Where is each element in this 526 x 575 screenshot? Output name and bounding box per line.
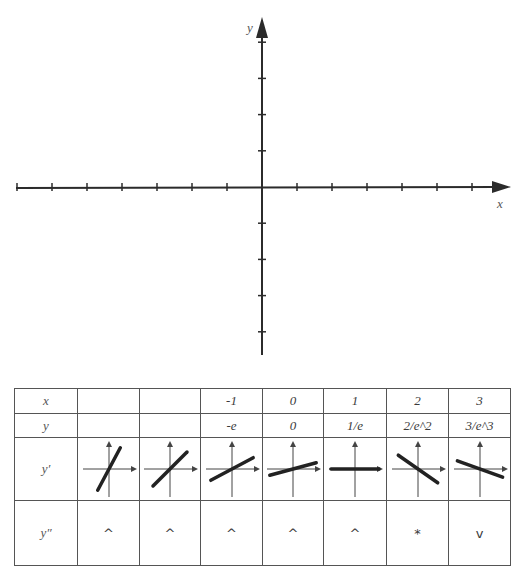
slope-glyph-icon: [324, 438, 387, 501]
x-value: 2: [387, 389, 449, 414]
y-double-prime-row: y″ ^ ^ ^ ^ ^ * v: [15, 501, 511, 566]
x-axis-arrow-icon: [492, 181, 511, 193]
slope-table-container: x -1 0 1 2 3 y -e 0 1/e 2/e^2 3/e^3 y′: [14, 388, 510, 565]
y-prime-row-label: y′: [15, 438, 78, 501]
y-value: [140, 414, 201, 438]
x-value: [140, 389, 201, 414]
y-value: -e: [201, 414, 263, 438]
concavity-value: *: [387, 501, 449, 566]
y-axis-label: y: [247, 20, 253, 36]
concavity-value: ^: [324, 501, 387, 566]
y-row: y -e 0 1/e 2/e^2 3/e^3: [15, 414, 511, 438]
slope-table: x -1 0 1 2 3 y -e 0 1/e 2/e^2 3/e^3 y′: [14, 388, 511, 566]
y-value: 3/e^3: [449, 414, 511, 438]
y-value: 0: [263, 414, 324, 438]
x-axis: [16, 187, 500, 188]
x-value: -1: [201, 389, 263, 414]
slope-glyph-icon: [140, 438, 201, 501]
concavity-value: v: [449, 501, 511, 566]
coordinate-axes: [0, 0, 526, 370]
x-row-label: x: [15, 389, 78, 414]
y-value: 2/e^2: [387, 414, 449, 438]
x-value: 3: [449, 389, 511, 414]
concavity-value: ^: [263, 501, 324, 566]
y-axis-arrow-icon: [256, 17, 268, 38]
x-value: 0: [263, 389, 324, 414]
y-value: 1/e: [324, 414, 387, 438]
slope-glyph-icon: [387, 438, 449, 501]
slope-glyph-icon: [449, 438, 511, 501]
concavity-value: ^: [140, 501, 201, 566]
y-row-label: y: [15, 414, 78, 438]
x-value: 1: [324, 389, 387, 414]
slope-glyph-icon: [201, 438, 263, 501]
y-prime-row: y′: [15, 438, 511, 501]
x-value: [78, 389, 140, 414]
slope-glyph-icon: [78, 438, 140, 501]
y-double-prime-row-label: y″: [15, 501, 78, 566]
concavity-value: ^: [201, 501, 263, 566]
x-axis-label: x: [497, 196, 503, 212]
slope-glyph-icon: [263, 438, 324, 501]
concavity-value: ^: [78, 501, 140, 566]
x-row: x -1 0 1 2 3: [15, 389, 511, 414]
y-value: [78, 414, 140, 438]
